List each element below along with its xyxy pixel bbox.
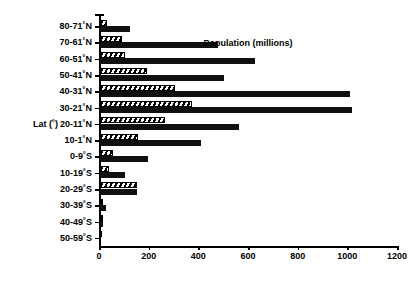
category-label: 50-59˚S: [0, 233, 96, 243]
bar-hatched: [100, 199, 103, 205]
category-label: 20-29˚S: [0, 184, 96, 194]
bar-solid: [100, 124, 239, 130]
bar-solid: [100, 58, 255, 64]
category-label: 10-1˚N: [0, 135, 96, 145]
bar-hatched: [100, 101, 192, 107]
bar-hatched: [100, 85, 175, 91]
category-label: 70-61˚N: [0, 37, 96, 47]
category-label: 50-41˚N: [0, 70, 96, 80]
y-tick: [95, 26, 99, 28]
bar-hatched: [100, 52, 125, 58]
x-tick: [149, 246, 151, 250]
bar-solid: [100, 156, 148, 162]
y-axis-cap-bar: [95, 14, 104, 16]
x-tick-label: 0: [96, 251, 101, 261]
bar-hatched: [100, 68, 147, 74]
bar-hatched: [100, 150, 113, 156]
bar-hatched: [100, 215, 103, 221]
bar-hatched: [100, 134, 138, 140]
bar-solid: [100, 221, 103, 227]
category-label: 20-11˚N: [0, 119, 96, 129]
y-tick: [95, 140, 99, 142]
x-tick-label: 200: [141, 251, 156, 261]
bar-hatched: [100, 20, 107, 26]
x-axis-title: Population (millions): [99, 38, 397, 48]
y-tick: [95, 91, 99, 93]
x-tick-label: 600: [240, 251, 255, 261]
bar-solid: [100, 107, 352, 113]
x-tick: [248, 246, 250, 250]
category-label: 60-51˚N: [0, 54, 96, 64]
y-tick: [95, 173, 99, 175]
x-tick: [99, 246, 101, 250]
x-tick: [298, 246, 300, 250]
y-tick: [95, 189, 99, 191]
y-tick: [95, 59, 99, 61]
category-label: 80-71˚N: [0, 21, 96, 31]
bar-hatched: [100, 117, 165, 123]
y-tick: [95, 238, 99, 240]
bar-solid: [100, 140, 201, 146]
category-label: 0-9˚S: [0, 151, 96, 161]
category-label: 10-19˚S: [0, 168, 96, 178]
x-tick: [397, 246, 399, 250]
chart-container: Lat (˚) 80-71˚N70-61˚N60-51˚N50-41˚N40-3…: [0, 0, 417, 288]
category-label: 30-21˚N: [0, 103, 96, 113]
plot-area: 020040060080010001200 Population (millio…: [99, 18, 397, 246]
x-tick: [347, 246, 349, 250]
bar-solid: [100, 205, 106, 211]
bar-solid: [100, 26, 130, 32]
bar-hatched: [100, 231, 102, 237]
x-tick-label: 800: [290, 251, 305, 261]
bar-solid: [100, 189, 137, 195]
x-tick: [198, 246, 200, 250]
category-label: 30-39˚S: [0, 200, 96, 210]
bar-hatched: [100, 166, 109, 172]
y-tick: [95, 156, 99, 158]
x-tick-label: 400: [191, 251, 206, 261]
y-tick: [95, 108, 99, 110]
x-tick-label: 1000: [337, 251, 357, 261]
y-tick: [95, 205, 99, 207]
y-tick: [95, 124, 99, 126]
y-tick: [95, 222, 99, 224]
category-label: 40-49˚S: [0, 217, 96, 227]
bar-solid: [100, 75, 224, 81]
x-tick-label: 1200: [387, 251, 407, 261]
category-label: 40-31˚N: [0, 86, 96, 96]
bar-solid: [100, 91, 350, 97]
bar-hatched: [100, 182, 137, 188]
bar-solid: [100, 172, 125, 178]
y-tick: [95, 75, 99, 77]
